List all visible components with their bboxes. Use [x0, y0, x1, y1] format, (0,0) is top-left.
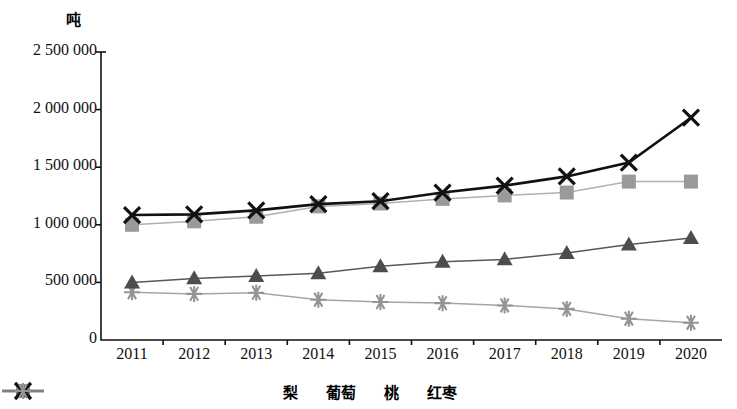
legend-item-葡萄[interactable]: 葡萄	[324, 381, 356, 402]
legend-label: 红枣	[427, 381, 457, 402]
legend-swatch-asterisk-icon	[0, 381, 46, 401]
legend-item-桃[interactable]: 桃	[382, 381, 399, 402]
series-红枣	[124, 284, 699, 331]
series-line	[132, 238, 691, 282]
marker-square	[311, 199, 325, 213]
marker-asterisk	[621, 311, 637, 327]
marker-triangle	[186, 270, 202, 284]
series-line	[132, 118, 691, 215]
marker-asterisk	[15, 383, 31, 399]
series-line	[132, 292, 691, 323]
legend-item-红枣[interactable]: 红枣	[425, 381, 457, 402]
line-chart: 吨 2 500 0002 000 0001 500 0001 000 00050…	[0, 0, 737, 409]
chart-legend: 梨葡萄桃红枣	[0, 381, 737, 402]
marker-triangle	[248, 268, 264, 282]
legend-label: 梨	[283, 381, 298, 402]
marker-square	[373, 196, 387, 210]
marker-x	[683, 110, 699, 126]
marker-asterisk	[559, 301, 575, 317]
marker-square	[684, 175, 698, 189]
series-梨	[125, 175, 698, 232]
marker-asterisk	[186, 286, 202, 302]
marker-square	[622, 175, 636, 189]
marker-asterisk	[683, 315, 699, 331]
marker-asterisk	[372, 294, 388, 310]
marker-triangle	[683, 230, 699, 244]
plot-area	[0, 0, 737, 409]
series-桃	[124, 110, 699, 223]
series-line	[132, 182, 691, 225]
series-葡萄	[124, 230, 699, 288]
marker-asterisk	[248, 285, 264, 301]
marker-square	[560, 186, 574, 200]
marker-asterisk	[497, 297, 513, 313]
legend-label: 葡萄	[326, 381, 356, 402]
legend-item-梨[interactable]: 梨	[281, 381, 298, 402]
marker-asterisk	[435, 295, 451, 311]
legend-label: 桃	[384, 381, 399, 402]
marker-asterisk	[310, 292, 326, 308]
marker-triangle	[435, 254, 451, 268]
